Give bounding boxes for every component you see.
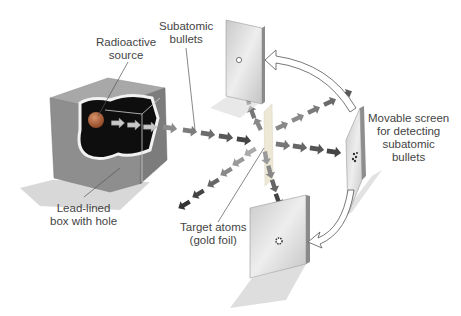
label-line: bullets xyxy=(159,33,213,46)
lead-lined-box xyxy=(50,78,167,192)
label-lead-lined-box: Lead-lined box with hole xyxy=(50,202,117,228)
label-line: box with hole xyxy=(50,215,117,228)
impact-spot-burst xyxy=(276,238,282,244)
detector-screen-bottom xyxy=(230,195,310,308)
label-line: (gold foil) xyxy=(180,234,246,247)
label-line: source xyxy=(96,49,156,62)
label-target-atoms: Target atoms (gold foil) xyxy=(180,221,246,247)
alpha-deflected-downleft xyxy=(176,144,258,212)
label-line: Lead-lined xyxy=(50,202,117,215)
label-line: Radioactive xyxy=(96,36,156,49)
diagram-canvas: Radioactive source Subatomic bullets Lea… xyxy=(0,0,461,316)
label-line: Movable screen xyxy=(368,112,449,125)
label-line: subatomic xyxy=(368,138,449,151)
label-movable-screen: Movable screen for detecting subatomic b… xyxy=(368,112,449,164)
label-line: Target atoms xyxy=(180,221,246,234)
alpha-beam-transmitted xyxy=(275,139,342,159)
label-subatomic-bullets: Subatomic bullets xyxy=(159,20,213,46)
curved-arrow-to-top xyxy=(265,50,356,112)
alpha-beam-incoming xyxy=(162,122,252,147)
label-radioactive-source: Radioactive source xyxy=(96,36,156,62)
label-line: Subatomic xyxy=(159,20,213,33)
label-line: bullets xyxy=(368,151,449,164)
curved-arrow-to-bottom xyxy=(308,190,354,248)
leader-subatomic-bullets xyxy=(186,48,195,130)
label-line: for detecting xyxy=(368,125,449,138)
detector-screen-top xyxy=(210,20,270,118)
impact-spot xyxy=(236,57,241,62)
radioactive-source-ball xyxy=(88,112,104,128)
